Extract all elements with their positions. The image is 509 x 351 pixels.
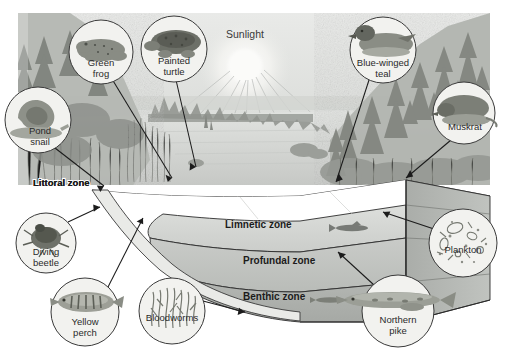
zone-label-profundal: Profundal zone: [243, 255, 316, 266]
callout-label-painted-turtle-2: turtle: [163, 66, 184, 77]
callout-plankton[interactable]: Plankton: [429, 209, 497, 277]
sunlight-label: Sunlight: [226, 28, 264, 40]
callout-label-pond-snail-2: snail: [30, 136, 50, 147]
callout-label-pike-2: pike: [389, 325, 406, 336]
diagram-canvas: Littoral zone Littoral zone Limnetic zon…: [0, 0, 509, 351]
callout-label-beetle-1: Diving: [33, 246, 59, 257]
callout-painted-turtle[interactable]: Painted turtle: [141, 16, 207, 82]
zone-label-benthic: Benthic zone: [243, 291, 306, 302]
callout-bloodworms[interactable]: Bloodworms: [139, 278, 205, 344]
callout-label-painted-turtle-1: Painted: [158, 55, 190, 66]
zone-label-littoral: Littoral zone: [33, 177, 89, 188]
zone-label-limnetic: Limnetic zone: [225, 219, 292, 230]
callout-diving-beetle[interactable]: Diving beetle: [16, 213, 76, 273]
callout-label-teal-1: Blue-winged: [357, 57, 409, 68]
callout-label-pond-snail-1: Pond: [29, 125, 51, 136]
callout-label-plankton: Plankton: [445, 244, 482, 255]
callout-label-perch-1: Yellow: [71, 316, 98, 327]
callout-label-muskrat: Muskrat: [448, 121, 482, 132]
callout-label-pike-1: Northern: [380, 314, 417, 325]
callout-green-frog[interactable]: Green frog: [69, 20, 133, 84]
callout-label-perch-2: perch: [73, 327, 97, 338]
callout-label-beetle-2: beetle: [33, 257, 59, 268]
callout-label-green-frog-2: frog: [93, 68, 109, 79]
callout-label-green-frog-1: Green: [88, 57, 114, 68]
callout-label-bloodworms: Bloodworms: [146, 312, 199, 323]
callout-pond-snail[interactable]: Pond snail: [5, 87, 71, 153]
callout-label-teal-2: teal: [375, 68, 390, 79]
